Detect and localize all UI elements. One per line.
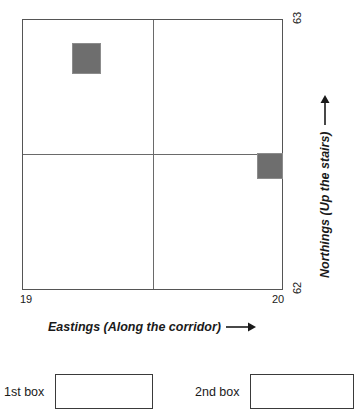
gridline-horizontal-midpoint (23, 154, 282, 155)
up-arrow-icon (319, 95, 331, 125)
x-axis-title: Eastings (Along the corridor) (48, 320, 256, 334)
answer-field-label-1st-box: 1st box (4, 385, 44, 399)
y-axis-max-tick-label: 63 (292, 12, 303, 24)
answer-field-label-2nd-box: 2nd box (195, 385, 239, 399)
answer-input-1st-box[interactable] (55, 374, 153, 409)
y-axis-min-tick-label: 62 (292, 282, 303, 294)
plot-area[interactable] (22, 19, 283, 290)
right-arrow-icon (226, 321, 256, 333)
x-axis-max-tick-label: 20 (272, 294, 284, 305)
answer-field-group-1st-box: 1st box (4, 374, 153, 409)
x-axis-min-tick-label: 19 (20, 294, 32, 305)
y-axis-title-text: Northings (Up the stairs) (318, 131, 332, 278)
answer-field-group-2nd-box: 2nd box (195, 374, 354, 409)
plot-marker-1st-box (72, 43, 101, 74)
plot-marker-2nd-box (257, 153, 283, 179)
y-axis-title: Northings (Up the stairs) (318, 95, 332, 278)
answer-input-2nd-box[interactable] (250, 374, 354, 409)
x-axis-title-text: Eastings (Along the corridor) (48, 320, 221, 334)
